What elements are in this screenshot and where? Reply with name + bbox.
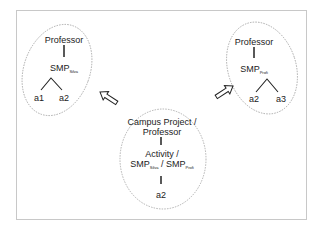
- center-root-line1: Campus Project /: [127, 117, 196, 127]
- left-root-node: Professor: [45, 35, 84, 45]
- center-leaf-a2: a2: [156, 190, 166, 200]
- right-root-node: Professor: [235, 37, 274, 47]
- left-middle-node: SMPSilva: [50, 63, 78, 73]
- left-leaf-a2: a2: [59, 93, 69, 103]
- hollow-arrow-icon-left: [97, 88, 119, 107]
- center-middle-line1: Activity /: [145, 149, 179, 159]
- hollow-arrow-icon-right: [214, 82, 236, 101]
- left-branch-edges: [41, 78, 62, 90]
- center-root-line2: Professor: [143, 127, 182, 137]
- left-leaf-a1: a1: [34, 93, 44, 103]
- right-branch-edges: [256, 79, 278, 92]
- right-middle-node: SMPProfi: [240, 64, 268, 74]
- right-leaf-a2: a2: [249, 94, 259, 104]
- center-middle-line2: SMPSilva / SMPProfi: [130, 159, 193, 169]
- right-leaf-a3: a3: [276, 94, 286, 104]
